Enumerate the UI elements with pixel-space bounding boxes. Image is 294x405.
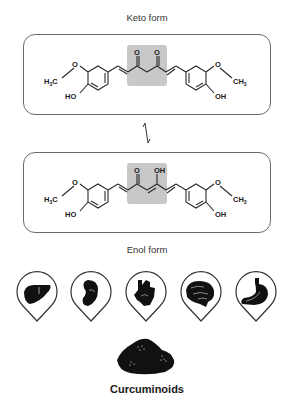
brain-pin <box>181 272 221 321</box>
heart-pin <box>126 272 166 321</box>
stomach-pin <box>236 272 276 321</box>
curcuminoids-icon <box>117 339 174 374</box>
organ-pins <box>0 0 294 405</box>
kidney-pin <box>71 272 111 321</box>
curcuminoids-label: Curcuminoids <box>0 383 294 395</box>
liver-pin <box>17 272 57 321</box>
